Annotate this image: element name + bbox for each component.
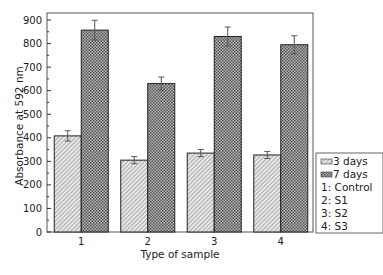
y-tick-label: 200: [23, 179, 42, 190]
bar-7-days: [148, 84, 175, 232]
x-tick-label: 4: [278, 236, 284, 247]
y-tick-label: 700: [23, 62, 42, 73]
y-tick-label: 300: [23, 156, 42, 167]
legend-note: 1: Control: [321, 181, 373, 193]
legend-entry: 3 days: [333, 155, 368, 167]
x-tick-label: 3: [211, 236, 217, 247]
bar-7-days: [281, 45, 308, 232]
y-tick-label: 900: [23, 15, 42, 26]
bars-group: [54, 20, 308, 232]
x-tick-label: 1: [78, 236, 84, 247]
y-tick-label: 400: [23, 132, 42, 143]
bar-7-days: [81, 30, 108, 232]
legend-note: 3: S2: [321, 207, 348, 219]
bar-3-days: [254, 155, 281, 232]
y-tick-label: 0: [36, 227, 42, 238]
legend-swatch: [321, 159, 332, 164]
y-tick-label: 100: [23, 203, 42, 214]
x-axis-title: Type of sample: [139, 248, 219, 260]
legend: 3 days7 days1: Control2: S13: S24: S3: [316, 153, 383, 233]
y-axis-title: Absorbance at 592 nm: [13, 66, 25, 186]
bar-3-days: [54, 136, 81, 232]
legend-entry: 7 days: [333, 168, 368, 180]
legend-note: 2: S1: [321, 194, 348, 206]
bar-3-days: [121, 160, 148, 232]
legend-note: 4: S3: [321, 220, 348, 232]
x-tick-label: 2: [145, 236, 151, 247]
y-tick-label: 600: [23, 85, 42, 96]
bar-3-days: [187, 153, 214, 232]
bar-chart: 0100200300400500600700800900 1234 Absorb…: [0, 0, 383, 275]
legend-swatch: [321, 172, 332, 177]
bar-7-days: [214, 36, 241, 232]
y-tick-label: 800: [23, 38, 42, 49]
y-tick-label: 500: [23, 109, 42, 120]
